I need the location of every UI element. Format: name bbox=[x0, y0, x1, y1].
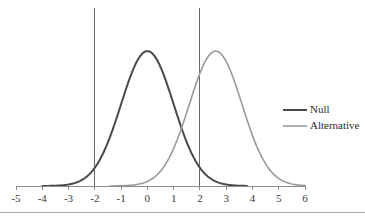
legend-label-alternative: Alternative bbox=[310, 119, 360, 131]
x-axis-tick-label: -5 bbox=[11, 192, 21, 204]
x-axis-tick-label: -4 bbox=[38, 192, 48, 204]
x-axis-tick-label: -1 bbox=[117, 192, 126, 204]
alternative-distribution-curve bbox=[111, 51, 305, 186]
x-axis-tick-label: 1 bbox=[171, 192, 177, 204]
x-axis-tick-label: 5 bbox=[276, 192, 282, 204]
vertical-critical-lines bbox=[95, 8, 200, 186]
x-axis-tick-label: -3 bbox=[64, 192, 74, 204]
x-axis-tick-label: 4 bbox=[250, 192, 256, 204]
curves-group bbox=[42, 51, 305, 186]
null-distribution-curve bbox=[42, 51, 247, 186]
x-axis-tick-label: 0 bbox=[145, 192, 151, 204]
legend-entry-null: Null bbox=[283, 103, 330, 115]
x-axis-tick-label: 2 bbox=[197, 192, 203, 204]
x-axis: -5-4-3-2-10123456 bbox=[11, 186, 308, 204]
distribution-chart-figure: -5-4-3-2-10123456 Null Alternative bbox=[0, 0, 365, 223]
legend-label-null: Null bbox=[310, 103, 330, 115]
x-axis-tick-labels: -5-4-3-2-10123456 bbox=[11, 192, 308, 204]
legend-entry-alternative: Alternative bbox=[283, 119, 360, 131]
legend: Null Alternative bbox=[283, 103, 360, 131]
x-axis-tick-label: 6 bbox=[302, 192, 308, 204]
x-axis-tick-label: -2 bbox=[90, 192, 99, 204]
x-axis-tick-label: 3 bbox=[223, 192, 229, 204]
chart-canvas: -5-4-3-2-10123456 Null Alternative bbox=[0, 0, 365, 223]
